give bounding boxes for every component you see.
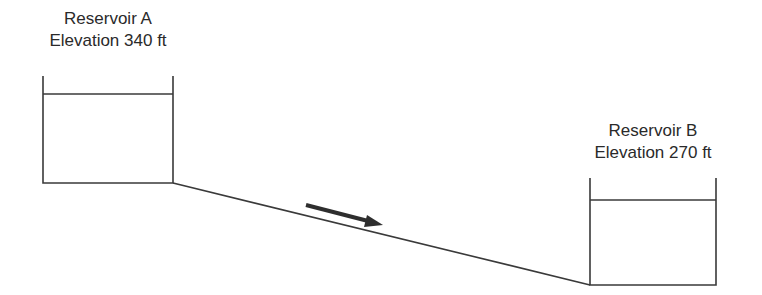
reservoir-b (590, 178, 716, 285)
diagram-canvas (0, 0, 762, 295)
reservoir-a (43, 76, 173, 183)
reservoir-a-walls (43, 76, 173, 183)
right-arrow-icon (306, 205, 383, 227)
reservoir-b-walls (590, 178, 716, 285)
pipe (173, 183, 590, 285)
